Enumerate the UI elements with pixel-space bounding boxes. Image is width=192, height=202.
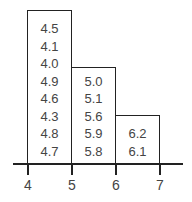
- bin-6-7: 6.2 6.1: [115, 115, 160, 164]
- bin-values: 6.2 6.1: [116, 125, 159, 160]
- bin-5-6: 5.0 5.1 5.6 5.9 5.8: [71, 67, 116, 164]
- value: 4.8: [40, 125, 58, 143]
- value: 4.1: [40, 38, 58, 56]
- tick-6: [115, 163, 117, 175]
- tick-4: [27, 163, 29, 175]
- bin-values: 4.5 4.1 4.0 4.9 4.6 4.3 4.8 4.7: [28, 20, 71, 160]
- bin-values: 5.0 5.1 5.6 5.9 5.8: [72, 73, 115, 161]
- value: 4.6: [40, 90, 58, 108]
- value: 5.8: [84, 143, 102, 161]
- value: 4.3: [40, 108, 58, 126]
- tick-label-7: 7: [156, 177, 164, 193]
- value: 6.2: [128, 125, 146, 143]
- value: 4.7: [40, 143, 58, 161]
- x-axis: [13, 163, 183, 165]
- bin-4-5: 4.5 4.1 4.0 4.9 4.6 4.3 4.8 4.7: [27, 10, 72, 164]
- tick-label-6: 6: [112, 177, 120, 193]
- value: 4.0: [40, 55, 58, 73]
- value: 5.0: [84, 73, 102, 91]
- tick-label-5: 5: [68, 177, 76, 193]
- value: 5.1: [84, 90, 102, 108]
- value: 4.9: [40, 73, 58, 91]
- tick-5: [71, 163, 73, 175]
- value: 6.1: [128, 143, 146, 161]
- tick-7: [159, 163, 161, 175]
- tick-label-4: 4: [24, 177, 32, 193]
- value: 5.6: [84, 108, 102, 126]
- value: 4.5: [40, 20, 58, 38]
- value: 5.9: [84, 125, 102, 143]
